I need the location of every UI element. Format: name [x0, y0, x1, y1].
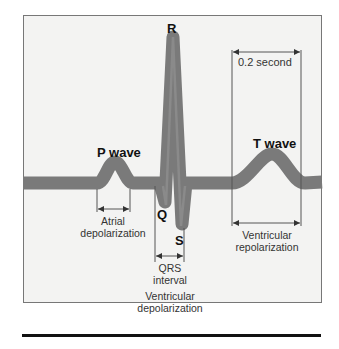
atrial-depolarization-label: Atrial depolarization [78, 215, 148, 239]
time-scale-label: 0.2 second [238, 56, 292, 68]
ventricular-depolarization-label: Ventricular depolarization [133, 290, 207, 314]
t-wave-label: T wave [253, 136, 296, 151]
r-point-label: R [167, 21, 176, 36]
qrs-interval-label: QRS interval [150, 262, 190, 286]
p-wave-label: P wave [97, 145, 141, 160]
ventricular-repolarization-label: Ventricular repolarization [229, 229, 305, 253]
q-point-label: Q [157, 207, 167, 222]
atrial-interval-marker [97, 189, 130, 212]
bottom-rule-divider [22, 334, 321, 337]
s-point-label: S [175, 233, 184, 248]
